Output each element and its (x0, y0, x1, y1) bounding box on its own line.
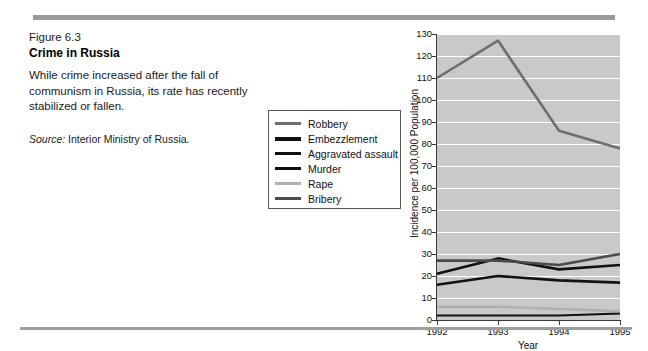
y-tick-label: 130 (392, 29, 432, 39)
legend-line-swatch (275, 137, 301, 141)
y-tick-mark (432, 34, 436, 35)
legend-item: Bribery (275, 191, 400, 206)
y-tick-mark (432, 276, 436, 277)
source-label: Source: (29, 133, 65, 145)
x-tick-mark (437, 320, 438, 325)
y-tick-label: 30 (392, 249, 432, 259)
source-text: Interior Ministry of Russia. (65, 133, 189, 145)
legend-item-label: Murder (308, 163, 341, 175)
legend-item: Rape (275, 176, 400, 191)
y-tick-label: 40 (392, 227, 432, 237)
y-tick-label: 110 (392, 73, 432, 83)
figure-caption-block: Figure 6.3 Crime in Russia While crime i… (29, 30, 279, 146)
figure-number: Figure 6.3 (29, 30, 279, 45)
x-axis-line (436, 320, 620, 321)
series-line (437, 313, 620, 315)
legend-item: Murder (275, 161, 400, 176)
legend-line-swatch (275, 197, 301, 200)
y-tick-mark (432, 188, 436, 189)
y-tick-label: 70 (392, 161, 432, 171)
y-tick-mark (432, 254, 436, 255)
y-tick-mark (432, 320, 436, 321)
y-tick-label: 80 (392, 139, 432, 149)
legend-item-label: Rape (308, 178, 333, 190)
y-tick-mark (432, 166, 436, 167)
y-tick-mark (432, 232, 436, 233)
y-tick-mark (432, 122, 436, 123)
legend-line-swatch (275, 182, 301, 185)
series-line (437, 307, 620, 311)
legend-item: Aggravated assault (275, 146, 400, 161)
legend-item: Robbery (275, 116, 400, 131)
legend-line-swatch (275, 152, 301, 155)
legend-item-label: Aggravated assault (308, 148, 398, 160)
figure-source: Source: Interior Ministry of Russia. (29, 132, 279, 146)
top-divider-rule (33, 15, 615, 20)
y-tick-mark (432, 78, 436, 79)
y-tick-label: 20 (392, 271, 432, 281)
series-lines (437, 34, 620, 320)
figure-title: Crime in Russia (29, 45, 279, 61)
legend-item-label: Embezzlement (308, 133, 377, 145)
x-tick-mark (498, 320, 499, 325)
chart-legend: RobberyEmbezzlementAggravated assaultMur… (268, 110, 401, 209)
x-tick-mark (559, 320, 560, 325)
legend-item-label: Robbery (308, 118, 348, 130)
y-tick-mark (432, 210, 436, 211)
series-line (437, 41, 620, 149)
y-tick-label: 90 (392, 117, 432, 127)
y-tick-label: 120 (392, 51, 432, 61)
y-tick-label: 60 (392, 183, 432, 193)
y-tick-mark (432, 298, 436, 299)
legend-line-swatch (275, 167, 301, 170)
line-chart: Incidence per 100,000 Population 0102030… (396, 28, 628, 320)
series-line (437, 254, 620, 265)
legend-line-swatch (275, 122, 301, 125)
figure-description: While crime increased after the fall of … (29, 68, 279, 115)
y-tick-mark (432, 56, 436, 57)
x-tick-mark (620, 320, 621, 325)
y-tick-label: 50 (392, 205, 432, 215)
y-tick-mark (432, 100, 436, 101)
x-axis-title: Year (436, 340, 620, 351)
legend-item: Embezzlement (275, 131, 400, 146)
y-tick-label: 0 (392, 315, 432, 325)
series-line (437, 276, 620, 285)
bottom-divider-rule (20, 327, 632, 330)
y-tick-label: 100 (392, 95, 432, 105)
y-tick-mark (432, 144, 436, 145)
y-tick-label: 10 (392, 293, 432, 303)
legend-item-label: Bribery (308, 193, 341, 205)
